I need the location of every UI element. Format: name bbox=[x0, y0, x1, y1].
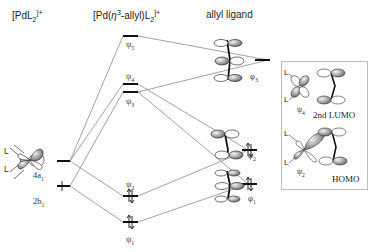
header-complex: [Pd(η3-allyl)L2]+ bbox=[93, 9, 160, 23]
orbital-label-phi1: φ1 bbox=[248, 193, 256, 205]
label-sub: 1 bbox=[131, 240, 134, 246]
header-complex-sup: ]+ bbox=[154, 9, 160, 16]
orbital-label-psi1: ψ1 bbox=[126, 234, 134, 246]
orbital-label-psi2: ψ2 bbox=[126, 179, 134, 191]
label-sub: 2 bbox=[253, 156, 256, 162]
header-pdl2: [PdL2]+ bbox=[12, 9, 43, 23]
orbital-label-phi2: φ2 bbox=[248, 150, 256, 162]
header-pdl2-text: [PdL bbox=[12, 10, 33, 21]
panel-orbitals bbox=[282, 62, 367, 189]
psi2-picture bbox=[289, 128, 347, 165]
panel-label-psi4: ψ4 bbox=[297, 105, 305, 116]
label-sub: 3 bbox=[131, 102, 134, 108]
label-sub: 5 bbox=[131, 45, 134, 51]
complex-levels bbox=[123, 36, 138, 222]
ligand-label: L bbox=[4, 164, 9, 174]
ligand-label: L bbox=[284, 158, 288, 167]
header-pdl2-sub: 2 bbox=[33, 16, 37, 23]
header-complex-sub: 2 bbox=[150, 16, 154, 23]
header-complex-text: [Pd( bbox=[93, 10, 111, 21]
orbital-label-phi3: φ3 bbox=[250, 71, 258, 83]
pdl2-levels bbox=[57, 161, 70, 186]
label-text: 2b bbox=[33, 196, 42, 206]
header-complex-rest: -allyl)L bbox=[121, 10, 150, 21]
psi4-picture bbox=[289, 69, 345, 104]
label-sub: 4 bbox=[131, 77, 134, 83]
orbital-label-4a1: 4a1 bbox=[33, 170, 44, 182]
orbital-label-psi4: ψ4 bbox=[126, 71, 134, 83]
label-sub: 2 bbox=[131, 185, 134, 191]
label-sub: 3 bbox=[255, 77, 258, 83]
panel-name-2nd-lumo: 2nd LUMO bbox=[313, 110, 355, 120]
label-text: 4a bbox=[33, 170, 41, 180]
header-pdl2-sup: ]+ bbox=[36, 9, 42, 16]
label-sub: 4 bbox=[302, 110, 305, 116]
orbital-label-psi3: ψ3 bbox=[126, 96, 134, 108]
frontier-orbital-panel: L L ψ4 2nd LUMO L L ψ2 HOMO bbox=[281, 61, 368, 190]
label-sub: 1 bbox=[41, 176, 44, 182]
orbital-label-psi5: ψ5 bbox=[126, 39, 134, 51]
orbital-label-2b1: 2b1 bbox=[33, 196, 44, 208]
label-sub: 2 bbox=[302, 172, 305, 178]
panel-name-homo: HOMO bbox=[332, 174, 360, 184]
ligand-label: L bbox=[284, 95, 288, 104]
orbital-phi3-picture bbox=[214, 40, 244, 82]
panel-label-psi2: ψ2 bbox=[297, 167, 305, 178]
ligand-label: L bbox=[284, 129, 288, 138]
ligand-label: L bbox=[4, 146, 9, 156]
label-sub: 1 bbox=[42, 202, 45, 208]
label-sub: 1 bbox=[253, 199, 256, 205]
header-allyl: allyl ligand bbox=[206, 9, 253, 20]
orbital-phi1-picture bbox=[215, 170, 244, 202]
ligand-label: L bbox=[284, 68, 288, 77]
